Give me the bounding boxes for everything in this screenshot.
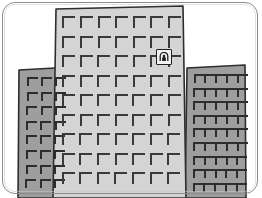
panel-frame-inner: [4, 4, 256, 192]
illustration-canvas: Three gray office towers with grid windo…: [0, 0, 262, 198]
